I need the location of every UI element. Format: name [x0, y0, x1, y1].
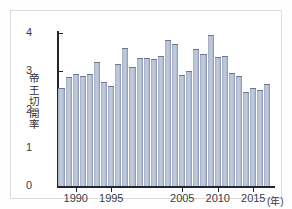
- bar-1996: [115, 64, 121, 186]
- y-axis-label: 帝王切開率: [27, 73, 40, 131]
- bar-2015: [250, 88, 256, 186]
- x-tick-label-1995: 1995: [99, 193, 123, 204]
- y-tick-label-2: 2: [18, 104, 32, 115]
- bar-1990: [73, 74, 79, 186]
- bar-1993: [94, 62, 100, 186]
- bar-2006: [186, 71, 192, 186]
- x-axis-line: [57, 186, 275, 188]
- bar-2008: [200, 54, 206, 186]
- bar-2017: [264, 84, 270, 187]
- x-tick-label-1990: 1990: [64, 193, 88, 204]
- chart-figure: 帝王切開率 01234 19901995200520102015 (年): [0, 0, 292, 209]
- bar-1997: [122, 48, 128, 186]
- bar-1988: [58, 88, 64, 186]
- bar-1998: [129, 67, 135, 186]
- bar-1995: [108, 86, 114, 186]
- y-axis-label-char-4: 率: [27, 119, 40, 131]
- bar-2001: [151, 59, 157, 186]
- bar-2005: [179, 75, 185, 186]
- bar-2002: [158, 56, 164, 186]
- bar-2000: [144, 58, 150, 186]
- x-axis-unit-label: (年): [267, 193, 284, 208]
- bar-2016: [257, 90, 263, 186]
- bar-1991: [80, 76, 86, 186]
- y-tick-label-0: 0: [18, 180, 32, 191]
- bar-series: [58, 33, 271, 186]
- bar-2007: [193, 49, 199, 186]
- bar-2013: [236, 76, 242, 186]
- y-tick-label-3: 3: [18, 65, 32, 76]
- bar-2014: [243, 92, 249, 186]
- bar-1999: [137, 58, 143, 186]
- bar-1992: [87, 74, 93, 186]
- bar-2009: [208, 35, 214, 186]
- bar-2010: [215, 57, 221, 186]
- bar-1989: [66, 77, 72, 186]
- x-tick-label-2005: 2005: [170, 193, 194, 204]
- bar-2003: [165, 40, 171, 186]
- y-tick-label-1: 1: [18, 142, 32, 153]
- y-tick-label-4: 4: [18, 27, 32, 38]
- bar-1994: [101, 82, 107, 186]
- chart-frame: 帝王切開率 01234 19901995200520102015 (年): [10, 10, 282, 199]
- bar-2012: [229, 73, 235, 186]
- bar-2004: [172, 44, 178, 186]
- bar-2011: [222, 56, 228, 186]
- y-tick-mark-0: [59, 186, 63, 187]
- x-tick-label-2015: 2015: [241, 193, 265, 204]
- plot-area: [58, 33, 271, 186]
- x-tick-label-2010: 2010: [206, 193, 230, 204]
